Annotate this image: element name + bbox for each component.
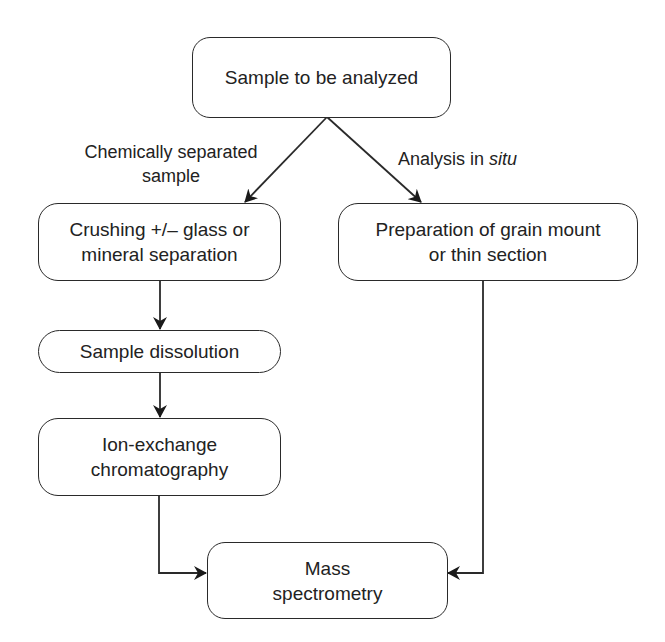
node-sample-dissolution: Sample dissolution — [38, 330, 281, 373]
edge-label-text: Analysis in — [398, 149, 489, 169]
node-crushing: Crushing +/– glass or mineral separation — [38, 203, 281, 281]
edge-label-line: Chemically separated — [66, 140, 276, 164]
edge-ion-exchange-to-mass-spec — [159, 495, 206, 573]
edge-label-italic: situ — [489, 149, 517, 169]
edge-label-line: sample — [66, 164, 276, 188]
node-ion-exchange: Ion-exchange chromatography — [38, 418, 281, 496]
node-label: mineral separation — [81, 242, 237, 267]
node-mass-spectrometry: Mass spectrometry — [207, 542, 448, 619]
node-label: or thin section — [429, 242, 547, 267]
node-label: spectrometry — [273, 581, 383, 606]
edge-label-analysis-in-situ: Analysis in situ — [398, 147, 548, 171]
node-label: Sample to be analyzed — [225, 65, 418, 90]
node-label: Preparation of grain mount — [376, 217, 601, 242]
node-sample-to-be-analyzed: Sample to be analyzed — [192, 37, 451, 118]
node-label: Sample dissolution — [80, 339, 239, 364]
node-label: Crushing +/– glass or — [69, 217, 249, 242]
node-preparation: Preparation of grain mount or thin secti… — [338, 203, 638, 281]
node-label: Ion-exchange — [102, 432, 217, 457]
edge-label-chemically-separated: Chemically separated sample — [66, 140, 276, 188]
edge-preparation-to-mass-spec — [448, 280, 483, 573]
node-label: chromatography — [91, 457, 228, 482]
node-label: Mass — [305, 556, 350, 581]
